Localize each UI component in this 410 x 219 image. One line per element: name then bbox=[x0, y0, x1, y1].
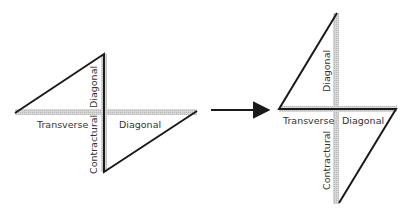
left-label-contractural: Contractural bbox=[88, 115, 99, 174]
right-figure: Diagonal Transverse Contractural Diagona… bbox=[279, 13, 397, 204]
left-label-diagonal-vertical: Diagonal bbox=[88, 66, 99, 108]
diagram-canvas: Diagonal Transverse Contractural Diagona… bbox=[0, 0, 410, 219]
left-figure: Diagonal Transverse Contractural Diagona… bbox=[15, 54, 197, 174]
right-label-transverse: Transverse bbox=[282, 115, 334, 126]
left-label-diagonal-horizontal: Diagonal bbox=[119, 119, 161, 130]
right-label-contractural: Contractural bbox=[321, 131, 332, 190]
right-label-diagonal-horizontal: Diagonal bbox=[342, 115, 384, 126]
left-label-transverse: Transverse bbox=[36, 119, 88, 130]
right-label-diagonal-vertical: Diagonal bbox=[321, 50, 332, 92]
